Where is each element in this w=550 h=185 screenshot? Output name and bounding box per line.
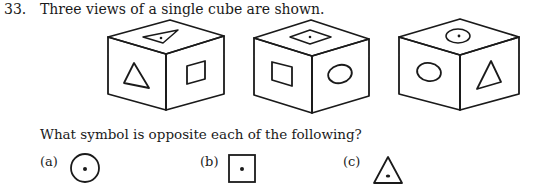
cube-1: [108, 20, 224, 110]
option-a-label: (a): [40, 154, 58, 169]
cube-3-right-triangle-icon: [477, 61, 501, 89]
option-b-label: (b): [200, 154, 218, 169]
option-c-label: (c): [343, 154, 360, 169]
cube-2: [254, 20, 369, 113]
cube-views-figure: [0, 0, 550, 125]
cube-3: [399, 19, 519, 110]
cube-2-left-square-icon: [272, 62, 292, 86]
cube-2-right-circle-icon: [326, 62, 354, 86]
circle-with-dot-icon: [68, 152, 102, 185]
cube-1-top-triangle-dot-icon: [143, 30, 178, 43]
question-prompt: What symbol is opposite each of the foll…: [40, 126, 362, 142]
cube-1-left-triangle-icon: [124, 63, 149, 88]
square-with-dot-icon: [227, 153, 257, 185]
cube-3-left-circle-icon: [416, 61, 443, 83]
cube-1-right-square-icon: [187, 61, 205, 84]
triangle-with-dot-icon: [372, 155, 404, 185]
